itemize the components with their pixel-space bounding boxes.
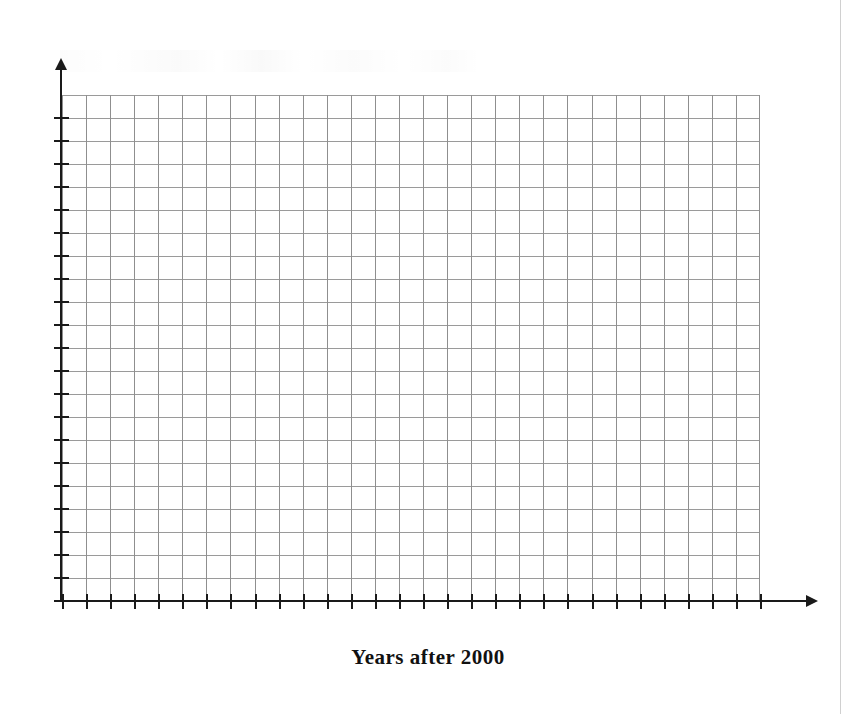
y-axis-tick bbox=[54, 255, 69, 257]
y-axis-tick bbox=[54, 117, 69, 119]
x-axis-tick bbox=[134, 594, 136, 609]
x-axis-tick bbox=[206, 594, 208, 609]
x-axis-tick bbox=[399, 594, 401, 609]
y-axis-tick bbox=[54, 462, 69, 464]
x-axis-tick bbox=[158, 594, 160, 609]
page-edge-rule bbox=[840, 0, 841, 714]
x-axis-tick bbox=[471, 594, 473, 609]
scan-ghosting-artifact bbox=[60, 50, 480, 72]
y-axis-tick bbox=[54, 209, 69, 211]
x-axis-tick bbox=[543, 594, 545, 609]
x-axis-tick bbox=[182, 594, 184, 609]
x-axis-tick bbox=[736, 594, 738, 609]
y-axis-tick bbox=[54, 324, 69, 326]
x-axis-tick bbox=[279, 594, 281, 609]
y-axis-tick bbox=[54, 508, 69, 510]
x-axis-arrow-icon bbox=[806, 595, 818, 607]
y-axis-tick bbox=[54, 278, 69, 280]
x-axis-tick bbox=[447, 594, 449, 609]
y-axis-tick bbox=[54, 416, 69, 418]
x-axis-tick bbox=[423, 594, 425, 609]
x-axis-tick bbox=[688, 594, 690, 609]
x-axis-tick bbox=[375, 594, 377, 609]
y-axis-arrow-icon bbox=[55, 58, 67, 70]
x-axis-tick bbox=[616, 594, 618, 609]
x-axis-tick bbox=[86, 594, 88, 609]
y-axis-tick bbox=[54, 232, 69, 234]
y-axis-tick bbox=[54, 301, 69, 303]
y-axis-tick bbox=[54, 439, 69, 441]
x-axis-tick bbox=[327, 594, 329, 609]
x-axis-tick bbox=[110, 594, 112, 609]
y-axis-tick bbox=[54, 140, 69, 142]
x-axis-tick bbox=[640, 594, 642, 609]
y-axis-tick bbox=[54, 370, 69, 372]
x-axis-tick bbox=[567, 594, 569, 609]
x-axis-tick bbox=[712, 594, 714, 609]
x-axis-tick bbox=[255, 594, 257, 609]
x-axis-tick bbox=[62, 594, 64, 609]
y-axis-tick bbox=[54, 186, 69, 188]
x-axis-tick bbox=[230, 594, 232, 609]
y-axis-tick bbox=[54, 393, 69, 395]
plot-grid bbox=[62, 95, 760, 601]
y-axis-tick bbox=[54, 577, 69, 579]
y-axis-tick bbox=[54, 163, 69, 165]
x-axis-title: Years after 2000 bbox=[0, 645, 856, 670]
y-axis-line bbox=[60, 68, 62, 602]
x-axis-tick bbox=[760, 594, 762, 609]
x-axis-tick bbox=[495, 594, 497, 609]
plot-grid-right-edge bbox=[759, 95, 760, 601]
y-axis-tick bbox=[54, 554, 69, 556]
x-axis-tick bbox=[664, 594, 666, 609]
x-axis-tick bbox=[351, 594, 353, 609]
y-axis-tick bbox=[54, 485, 69, 487]
worksheet-page: Years after 2000 bbox=[0, 0, 856, 714]
y-axis-tick bbox=[54, 531, 69, 533]
x-axis-tick bbox=[519, 594, 521, 609]
x-axis-tick bbox=[303, 594, 305, 609]
x-axis-line bbox=[54, 600, 809, 602]
x-axis-tick bbox=[592, 594, 594, 609]
y-axis-tick bbox=[54, 347, 69, 349]
